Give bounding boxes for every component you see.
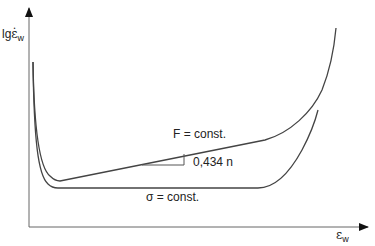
creep-curve-diagram (0, 0, 375, 246)
x-axis-label: εw (336, 229, 349, 241)
y-axis-label-symbol: ε̇ (11, 27, 17, 41)
x-axis-label-subscript: w (342, 234, 349, 244)
curve-f-label: F = const. (173, 128, 226, 140)
curve-sigma-const (33, 62, 318, 188)
slope-label: 0,434 n (193, 156, 233, 168)
y-axis-label-lg: lg (2, 27, 11, 41)
curve-sigma-label: σ = const. (146, 191, 199, 203)
y-axis-label: lgε̇w (2, 28, 24, 40)
y-axis-label-subscript: w (18, 33, 25, 43)
